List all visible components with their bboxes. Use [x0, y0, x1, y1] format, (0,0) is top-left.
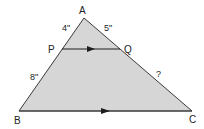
length-label-qc: ? — [156, 69, 161, 79]
vertex-label-q: Q — [124, 44, 132, 55]
length-label-ap: 4" — [62, 23, 70, 33]
vertex-label-c: C — [189, 114, 196, 125]
length-label-aq: 5" — [104, 23, 112, 33]
vertex-label-a: A — [79, 5, 86, 16]
vertex-label-b: B — [14, 115, 21, 126]
vertex-label-p: P — [48, 44, 55, 55]
length-label-pb: 8" — [30, 72, 38, 82]
triangle-diagram: A P Q B C 4" 5" 8" ? — [0, 0, 204, 129]
